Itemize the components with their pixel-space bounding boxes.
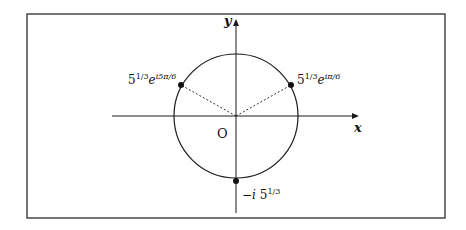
- point-right-label: 51/3eiπ/6: [297, 73, 340, 86]
- complex-plane-diagram: [0, 0, 466, 230]
- origin-label: O: [217, 127, 228, 140]
- x-axis-label: x: [354, 121, 362, 134]
- point-right: [288, 82, 294, 88]
- point-bottom: [233, 178, 239, 184]
- point-bottom-label: −i 51/3: [242, 188, 280, 201]
- point-left-label: 51/3ei5π/6: [128, 73, 176, 86]
- radius-line-left: [181, 85, 236, 116]
- point-left: [178, 82, 184, 88]
- radius-line-right: [236, 85, 291, 116]
- y-axis-label: y: [224, 14, 232, 27]
- y-axis-arrow-icon: [233, 19, 239, 26]
- x-axis-arrow-icon: [352, 113, 359, 119]
